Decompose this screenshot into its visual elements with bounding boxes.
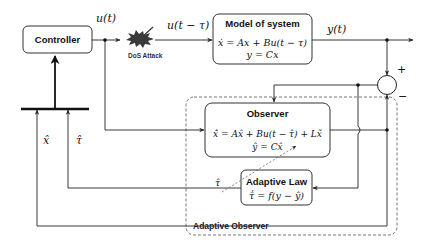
model-eq-state: ẋ = Ax + Bu(t − τ) xyxy=(218,37,307,48)
observer-eq-state: x̂̇ = Ax̂ + Bu(t − τ̂) + Lx̃ xyxy=(213,129,322,139)
signal-x-hat: x̂ xyxy=(43,134,50,147)
signal-y: y(t) xyxy=(326,23,346,36)
controller-block: Controller xyxy=(23,26,92,53)
observer-title: Observer xyxy=(247,108,289,119)
controller-title: Controller xyxy=(35,34,81,45)
minus-sign: − xyxy=(398,90,407,103)
model-block: Model of system ẋ = Ax + Bu(t − τ) y = C… xyxy=(213,14,312,64)
adaptive-law-title: Adaptive Law xyxy=(246,176,308,187)
adaptive-law-block: Adaptive Law τ̂̇ = f(y − ŷ) xyxy=(241,170,312,205)
signal-u: u(t) xyxy=(96,12,116,25)
signal-tau-hat-inner: τ̂ xyxy=(215,177,221,188)
adaptive-observer-diagram: Adaptive Observer Controller Model of sy… xyxy=(0,0,435,252)
model-title: Model of system xyxy=(225,18,299,29)
signal-u-delayed: u(t − τ) xyxy=(167,19,209,32)
signal-tau-hat: τ̂ xyxy=(76,134,83,147)
adaptive-law-eq: τ̂̇ = f(y − ŷ) xyxy=(249,190,304,201)
signal-bus xyxy=(21,56,89,109)
observer-block: Observer x̂̇ = Ax̂ + Bu(t − τ̂) + Lx̃ ŷ … xyxy=(205,103,330,157)
dos-attack-icon xyxy=(126,27,154,48)
plus-sign: + xyxy=(397,63,406,76)
dos-attack-label: DoS Attack xyxy=(128,52,163,59)
observer-eq-output: ŷ = Cx̂ xyxy=(251,142,283,152)
model-eq-output: y = Cx xyxy=(246,49,280,60)
